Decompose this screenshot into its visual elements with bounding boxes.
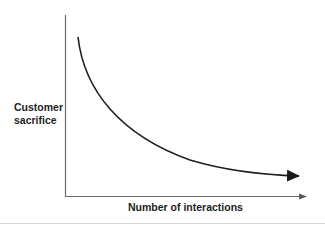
bottom-divider [0, 223, 325, 224]
x-axis-label: Number of interactions [128, 201, 243, 213]
diagram-canvas: Customer sacrifice Number of interaction… [0, 0, 325, 226]
y-axis-label: Customer sacrifice [14, 101, 63, 127]
sacrifice-curve [78, 37, 299, 176]
